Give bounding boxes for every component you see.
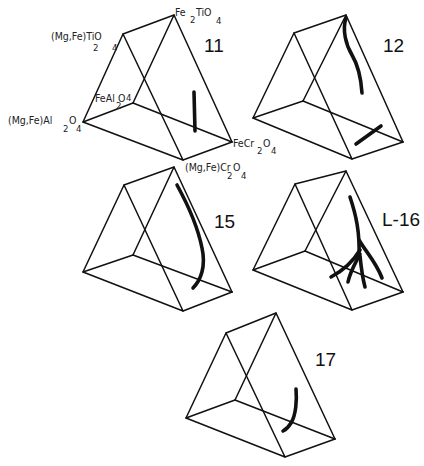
label-fe2-tio4: Fe 2 TiO 4 [175,6,221,26]
svg-text:O: O [118,92,125,104]
svg-text:2: 2 [257,145,262,156]
prism-15: 15 [83,167,235,311]
prism-11-trend [194,92,195,131]
label-mgfe-tio: (Mg,Fe)TiO 2 4 [51,30,117,53]
prism-L-16: L-16 [253,171,420,310]
svg-text:4: 4 [241,170,246,181]
svg-text:Fe: Fe [175,6,186,18]
svg-text:4: 4 [76,123,81,134]
svg-text:2: 2 [227,170,232,181]
panel-label-L-16: L-16 [382,209,420,230]
svg-text:FeAl: FeAl [95,92,115,104]
svg-text:4: 4 [126,92,131,103]
label-mgfe-cr2o4: (Mg,Fe)Cr 2 O 4 [185,161,246,181]
prism-12: 12 [253,15,404,159]
svg-text:(Mg,Fe)Cr: (Mg,Fe)Cr [185,161,231,173]
svg-text:FeCr: FeCr [233,137,254,149]
prism-L-16-trends [331,197,382,287]
panel-label-11: 11 [204,35,224,56]
prism-17-trend [283,389,296,431]
label-fecr2o4: FeCr 2 O 4 [233,137,276,156]
svg-text:(Mg,Fe)Al: (Mg,Fe)Al [8,114,52,126]
panel-label-17: 17 [315,349,336,370]
svg-text:4: 4 [112,42,117,53]
svg-text:(Mg,Fe)TiO: (Mg,Fe)TiO [51,30,102,42]
label-feal2o4: FeAl 2 O 4 [95,92,131,111]
prism-11: 11 (Mg,Fe)TiO 2 4 Fe 2 TiO 4 FeAl 2 O 4 … [8,6,276,181]
svg-text:2: 2 [190,14,195,25]
panel-label-12: 12 [383,35,404,56]
svg-text:4: 4 [271,145,276,156]
svg-text:2: 2 [93,42,98,53]
prism-12-trend-lower [356,126,381,144]
svg-text:O: O [233,161,240,173]
prism-17: 17 [186,313,336,457]
svg-text:O: O [263,137,270,149]
svg-text:TiO: TiO [195,6,212,18]
svg-text:2: 2 [63,123,68,134]
spinel-prism-diagram: 11 (Mg,Fe)TiO 2 4 Fe 2 TiO 4 FeAl 2 O 4 … [0,0,424,466]
svg-text:4: 4 [216,15,221,26]
panel-label-15: 15 [214,211,235,232]
label-mgfe-al2o4: (Mg,Fe)Al 2 O 4 [8,114,81,134]
